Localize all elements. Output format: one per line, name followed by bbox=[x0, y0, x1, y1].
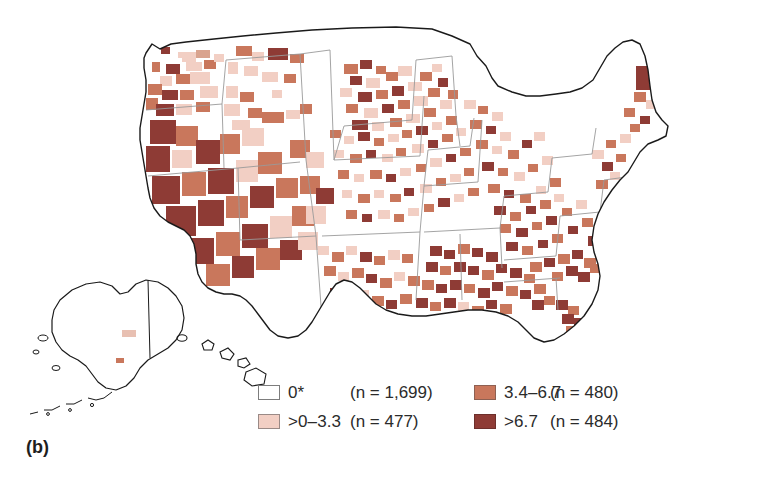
legend-entry-2: 3.4–6.7 bbox=[474, 378, 550, 407]
map-legend: 0* (n = 1,699) 3.4–6.7 (n = 480) >0–3.3 … bbox=[258, 378, 650, 436]
legend-count-3: (n = 484) bbox=[550, 412, 619, 432]
legend-count-cell-3: (n = 484) bbox=[550, 407, 650, 436]
legend-count-0: (n = 1,699) bbox=[350, 383, 433, 403]
legend-count-2: (n = 480) bbox=[550, 383, 619, 403]
panel-label: (b) bbox=[26, 437, 49, 458]
conus-county-fills bbox=[130, 20, 690, 350]
alaska-inset bbox=[30, 280, 190, 415]
legend-label-1: >0–3.3 bbox=[288, 412, 341, 432]
legend-entry-3: >6.7 bbox=[474, 407, 550, 436]
legend-entry-1: >0–3.3 bbox=[258, 407, 350, 436]
figure-panel: 0* (n = 1,699) 3.4–6.7 (n = 480) >0–3.3 … bbox=[0, 0, 762, 488]
legend-count-cell-2: (n = 480) bbox=[550, 378, 650, 407]
legend-swatch-0-icon bbox=[258, 385, 280, 400]
legend-label-0: 0* bbox=[288, 383, 304, 403]
legend-swatch-3-icon bbox=[474, 414, 496, 429]
legend-label-3: >6.7 bbox=[504, 412, 538, 432]
hawaii-inset bbox=[177, 335, 266, 386]
legend-count-cell-0: (n = 1,699) bbox=[350, 378, 474, 407]
legend-count-cell-1: (n = 477) bbox=[350, 407, 474, 436]
legend-swatch-2-icon bbox=[474, 385, 496, 400]
legend-entry-0: 0* bbox=[258, 378, 350, 407]
legend-count-1: (n = 477) bbox=[350, 412, 419, 432]
legend-swatch-1-icon bbox=[258, 414, 280, 429]
